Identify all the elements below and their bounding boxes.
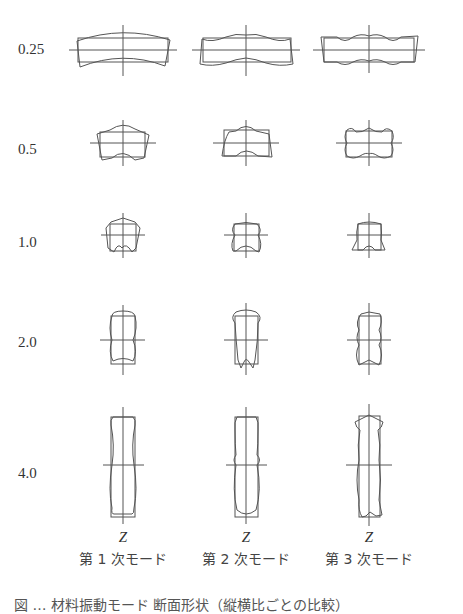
z-axis-label-mode-1: Z <box>73 529 173 546</box>
shape-2-0-mode-2 <box>224 303 268 375</box>
column-label-mode-3: 第 3 次モード <box>304 548 434 568</box>
shape-2-0-mode-1 <box>100 305 145 375</box>
shape-0-5-mode-3 <box>336 120 402 166</box>
shape-2-0-mode-3 <box>347 303 391 375</box>
shape-4-0-mode-1 <box>103 407 144 524</box>
shape-0-25-mode-3 <box>313 25 425 73</box>
shape-4-0-mode-3 <box>346 404 392 526</box>
shape-4-0-mode-2 <box>226 407 267 524</box>
figure-caption: 図 … 材料振動モード 断面形状（縦横比ごとの比較） <box>14 594 349 614</box>
shape-1-0-mode-3 <box>347 213 391 258</box>
column-label-mode-2: 第 2 次モード <box>181 548 311 568</box>
z-axis-label-mode-3: Z <box>319 529 419 546</box>
shape-0-5-mode-1 <box>90 120 156 166</box>
shape-1-0-mode-2 <box>224 213 268 258</box>
column-label-mode-1: 第 1 次モード <box>58 548 188 568</box>
z-axis-label-mode-2: Z <box>196 529 296 546</box>
shape-1-0-mode-1 <box>101 213 145 258</box>
shape-0-25-mode-2 <box>192 25 300 76</box>
shape-0-5-mode-2 <box>213 120 279 166</box>
shape-0-25-mode-1 <box>69 25 177 76</box>
